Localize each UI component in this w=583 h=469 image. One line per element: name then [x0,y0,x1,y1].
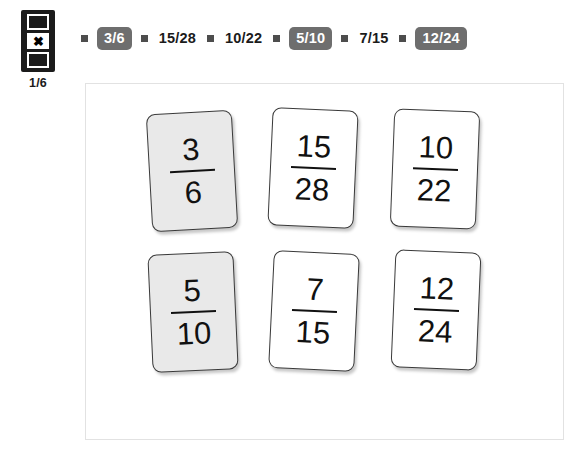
fraction-denominator: 6 [184,177,203,209]
progress-cell-1 [27,14,49,30]
fraction-bar [291,309,336,314]
chip-item-2[interactable]: 10/22 [223,28,264,48]
fraction-numerator: 7 [306,273,325,305]
fraction-numerator: 12 [419,272,455,304]
fraction-numerator: 10 [418,131,454,163]
chip-separator [141,35,148,42]
close-x-icon: ✖ [33,35,44,48]
fraction-bar [412,167,457,171]
fraction-numerator: 5 [183,274,202,306]
fraction: 3 6 [167,133,216,210]
fraction-card[interactable]: 7 15 [268,250,360,372]
fraction: 7 15 [290,273,339,350]
fraction-card[interactable]: 5 10 [147,251,238,373]
fraction-bar [290,166,335,170]
chip-item-0[interactable]: 3/6 [97,27,132,50]
fraction-denominator: 24 [417,315,453,347]
chip-item-3[interactable]: 5/10 [289,27,332,50]
fraction: 5 10 [169,274,217,350]
fraction-card[interactable]: 15 28 [267,107,358,229]
progress-cell-2: ✖ [27,33,49,49]
fraction-denominator: 28 [294,173,330,206]
fraction-card[interactable]: 3 6 [146,110,238,233]
fraction-denominator: 15 [295,316,331,349]
fraction-chip-nav: 3/6 15/28 10/22 5/10 7/15 12/24 [72,24,467,52]
fraction-bar [413,308,458,312]
fraction: 10 22 [411,131,459,207]
chip-item-5[interactable]: 12/24 [415,27,466,50]
chip-separator [341,35,348,42]
fraction: 12 24 [412,272,460,348]
fraction-denominator: 10 [176,317,212,350]
top-bar: ✖ 1/6 3/6 15/28 10/22 5/10 7/15 12/24 [0,0,583,82]
progress-cell-3 [27,52,49,68]
chip-item-4[interactable]: 7/15 [357,28,390,48]
chip-separator [399,35,406,42]
fraction-card[interactable]: 10 22 [390,108,480,229]
fraction-bar [170,310,215,314]
chip-item-1[interactable]: 15/28 [157,28,198,48]
fraction-bar [169,169,214,174]
chip-separator [81,35,88,42]
chip-separator [207,35,214,42]
fraction-card-panel: 3 6 15 28 10 22 5 10 7 15 [85,83,564,440]
fraction-card[interactable]: 12 24 [391,249,482,370]
progress-marker-icon: ✖ [21,10,55,72]
fraction: 15 28 [289,130,337,206]
fraction-denominator: 22 [416,175,452,207]
fraction-numerator: 15 [296,130,332,163]
chip-separator [273,35,280,42]
progress-counter: 1/6 [21,76,55,90]
fraction-numerator: 3 [181,133,200,165]
